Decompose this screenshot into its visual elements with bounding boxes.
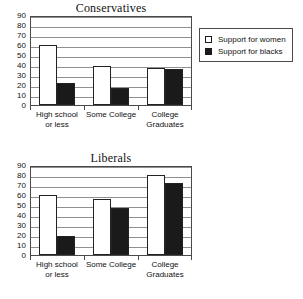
x-axis-label-line: or less bbox=[30, 270, 84, 280]
x-axis-label-line: High school bbox=[30, 260, 84, 270]
bar-support-for-women bbox=[147, 175, 165, 255]
bar-support-for-women bbox=[93, 199, 111, 255]
x-axis-label: High schoolor less bbox=[30, 260, 84, 280]
y-tick-label: 20 bbox=[17, 232, 26, 240]
bar-support-for-blacks bbox=[111, 208, 129, 255]
y-tick-label: 80 bbox=[17, 172, 26, 180]
bar-support-for-women bbox=[39, 45, 57, 105]
y-tick-label: 60 bbox=[17, 192, 26, 200]
y-tick-label: 70 bbox=[17, 32, 26, 40]
x-axis-label-line: College bbox=[138, 260, 192, 270]
x-axis-label: CollegeGraduates bbox=[138, 110, 192, 130]
x-axis-labels-conservatives: High schoolor lessSome CollegeCollegeGra… bbox=[30, 110, 192, 140]
x-axis-label-line: College bbox=[138, 110, 192, 120]
legend-label-support-for-women: Support for women bbox=[218, 35, 286, 44]
bar-series-liberals bbox=[31, 167, 191, 255]
y-tick-label: 30 bbox=[17, 222, 26, 230]
y-tick-label: 90 bbox=[17, 12, 26, 20]
y-tick-label: 90 bbox=[17, 162, 26, 170]
bar-support-for-blacks bbox=[57, 236, 75, 255]
legend-item-support-for-women: Support for women bbox=[205, 33, 286, 45]
y-tick-label: 20 bbox=[17, 82, 26, 90]
y-tick-label: 50 bbox=[17, 52, 26, 60]
y-tick-label: 0 bbox=[22, 252, 26, 260]
white-square-icon bbox=[205, 36, 212, 43]
chart-title-conservatives: Conservatives bbox=[30, 1, 192, 16]
bar-support-for-blacks bbox=[57, 83, 75, 105]
legend-item-support-for-blacks: Support for blacks bbox=[205, 45, 286, 57]
bar-series-conservatives bbox=[31, 17, 191, 105]
y-tick-label: 70 bbox=[17, 182, 26, 190]
chart-liberals: Liberals 0102030405060708090 High school… bbox=[0, 150, 303, 299]
black-square-icon bbox=[205, 48, 212, 55]
chart-legend: Support for women Support for blacks bbox=[199, 28, 293, 62]
plot-area-liberals bbox=[30, 166, 192, 256]
y-axis-conservatives: 0102030405060708090 bbox=[8, 16, 28, 106]
x-axis-label: Some College bbox=[84, 110, 138, 120]
legend-label-support-for-blacks: Support for blacks bbox=[218, 47, 282, 56]
x-axis-label: High schoolor less bbox=[30, 110, 84, 130]
x-axis-label: Some College bbox=[84, 260, 138, 270]
bar-support-for-women bbox=[147, 68, 165, 105]
plot-area-conservatives bbox=[30, 16, 192, 106]
x-axis-label-line: Graduates bbox=[138, 270, 192, 280]
x-axis-labels-liberals: High schoolor lessSome CollegeCollegeGra… bbox=[30, 260, 192, 290]
y-tick-label: 40 bbox=[17, 62, 26, 70]
x-axis-label-line: Some College bbox=[84, 110, 138, 120]
bar-support-for-blacks bbox=[165, 183, 183, 255]
bar-support-for-women bbox=[93, 66, 111, 105]
bar-support-for-blacks bbox=[165, 69, 183, 105]
x-axis-label: CollegeGraduates bbox=[138, 260, 192, 280]
x-axis-label-line: High school bbox=[30, 110, 84, 120]
y-tick-label: 0 bbox=[22, 102, 26, 110]
x-axis-label-line: Graduates bbox=[138, 120, 192, 130]
bar-support-for-women bbox=[39, 195, 57, 255]
y-tick-label: 40 bbox=[17, 212, 26, 220]
y-axis-liberals: 0102030405060708090 bbox=[8, 166, 28, 256]
chart-conservatives: Conservatives 0102030405060708090 High s… bbox=[0, 0, 303, 150]
y-tick-label: 10 bbox=[17, 242, 26, 250]
y-tick-label: 60 bbox=[17, 42, 26, 50]
bar-support-for-blacks bbox=[111, 88, 129, 105]
x-axis-label-line: or less bbox=[30, 120, 84, 130]
chart-title-liberals: Liberals bbox=[30, 151, 192, 166]
x-axis-label-line: Some College bbox=[84, 260, 138, 270]
y-tick-label: 10 bbox=[17, 92, 26, 100]
y-tick-label: 30 bbox=[17, 72, 26, 80]
y-tick-label: 50 bbox=[17, 202, 26, 210]
y-tick-label: 80 bbox=[17, 22, 26, 30]
